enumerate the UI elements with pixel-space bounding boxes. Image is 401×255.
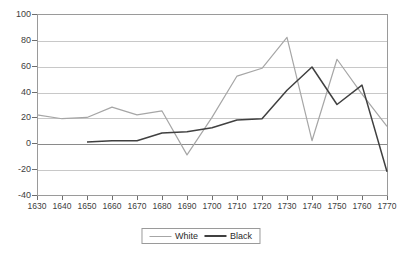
series-layer: [37, 14, 388, 196]
x-axis-tick-mark: [112, 196, 113, 200]
x-axis-tick-label: 1630: [28, 201, 47, 211]
x-axis-tick-label: 1760: [353, 201, 372, 211]
y-axis-tick-label: 20: [21, 112, 31, 122]
x-axis-tick-mark: [287, 196, 288, 200]
y-axis-tick-label: 40: [21, 87, 31, 97]
x-axis-tick-label: 1710: [228, 201, 247, 211]
legend-item-black[interactable]: Black: [204, 231, 252, 241]
x-axis-tick-label: 1660: [103, 201, 122, 211]
series-line-white: [37, 37, 387, 155]
x-axis-tick-label: 1750: [328, 201, 347, 211]
x-axis-tick-label: 1770: [378, 201, 397, 211]
x-axis-tick-mark: [162, 196, 163, 200]
x-axis-tick-mark: [212, 196, 213, 200]
x-axis-tick-label: 1700: [203, 201, 222, 211]
legend-line-swatch-white: [149, 236, 171, 237]
x-axis-tick-label: 1670: [128, 201, 147, 211]
x-axis-tick-label: 1690: [178, 201, 197, 211]
y-axis: 100806040200-20-40: [0, 0, 37, 196]
y-axis-tick-label: 80: [21, 35, 31, 45]
x-axis-tick-label: 1640: [53, 201, 72, 211]
x-axis-tick-label: 1720: [253, 201, 272, 211]
line-chart: 100806040200-20-40 163016401650166016701…: [0, 0, 401, 255]
y-axis-tick-label: 100: [16, 9, 31, 19]
x-axis-tick-mark: [187, 196, 188, 200]
x-axis-tick-mark: [337, 196, 338, 200]
series-line-black: [87, 67, 387, 172]
y-axis-tick-label: -40: [18, 190, 31, 200]
legend-label: Black: [230, 231, 252, 241]
x-axis-tick-mark: [237, 196, 238, 200]
x-axis-tick-mark: [312, 196, 313, 200]
chart-legend: WhiteBlack: [141, 228, 260, 244]
y-axis-tick-label: -20: [18, 164, 31, 174]
legend-label: White: [175, 231, 198, 241]
y-axis-tick-label: 60: [21, 61, 31, 71]
x-axis-tick-label: 1650: [78, 201, 97, 211]
x-axis-tick-mark: [137, 196, 138, 200]
x-axis-tick-mark: [62, 196, 63, 200]
x-axis-tick-mark: [387, 196, 388, 200]
x-axis-tick-label: 1740: [303, 201, 322, 211]
x-axis-tick-label: 1680: [153, 201, 172, 211]
legend-item-white[interactable]: White: [149, 231, 198, 241]
x-axis-tick-mark: [262, 196, 263, 200]
x-axis-tick-label: 1730: [278, 201, 297, 211]
y-axis-tick-label: 0: [26, 138, 31, 148]
x-axis-tick-mark: [87, 196, 88, 200]
x-axis-tick-mark: [362, 196, 363, 200]
legend-line-swatch-black: [204, 235, 226, 237]
x-axis-tick-mark: [37, 196, 38, 200]
x-axis: 1630164016501660167016801690170017101720…: [37, 196, 388, 218]
